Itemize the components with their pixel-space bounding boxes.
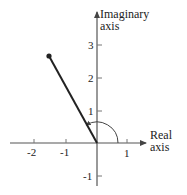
vector-endpoint-dot: [46, 53, 51, 58]
y-ticks: [97, 45, 102, 176]
x-tick-label-neg2: -2: [27, 146, 36, 158]
complex-vector: [49, 56, 97, 143]
x-tick-label-neg1: -1: [60, 146, 69, 158]
real-axis-label-line2: axis: [150, 140, 170, 154]
y-tick-label-1: 1: [88, 105, 94, 117]
complex-plane-diagram: -2 -1 1 3 2 1 -1 Imaginary axis Real axi…: [0, 0, 187, 195]
y-tick-label-3: 3: [88, 39, 94, 51]
y-tick-label-2: 2: [88, 72, 94, 84]
y-tick-label-neg1: -1: [83, 170, 92, 182]
imaginary-axis-label-line2: axis: [100, 19, 120, 33]
x-tick-label-1: 1: [124, 147, 130, 159]
